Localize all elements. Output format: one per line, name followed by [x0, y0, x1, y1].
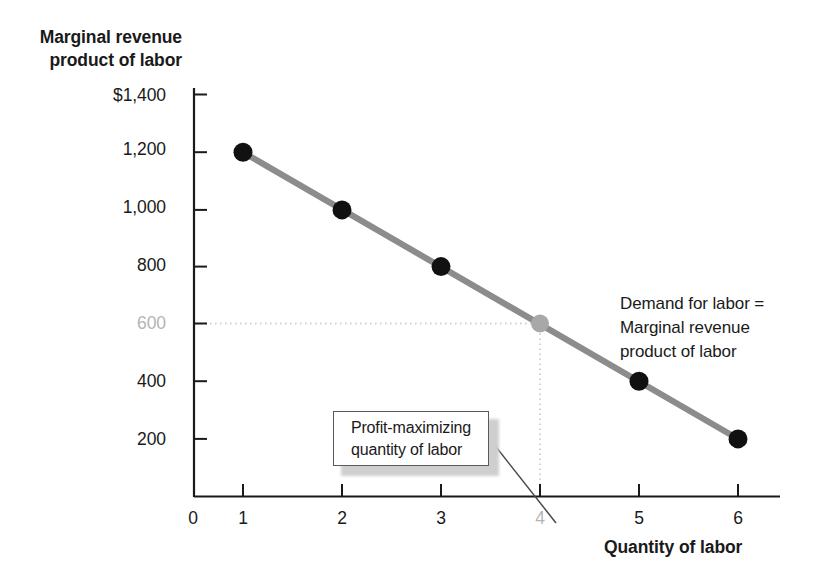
- chart-figure: Marginal revenue product of labor $1,400…: [0, 0, 819, 585]
- data-point-marker-4-highlighted: [531, 315, 549, 333]
- data-point-marker-5: [630, 372, 649, 391]
- data-point-marker-1: [234, 143, 253, 162]
- profit-max-callout-box: Profit-maximizing quantity of labor: [333, 411, 489, 466]
- data-point-marker-6: [729, 429, 748, 448]
- demand-curve-annotation: Demand for labor = Marginal revenue prod…: [620, 292, 764, 364]
- x-axis-ticks: [243, 484, 738, 497]
- y-axis-ticks: [194, 95, 207, 439]
- callout-leader-line: [489, 438, 556, 523]
- data-point-marker-3: [432, 257, 451, 276]
- profit-max-callout-text: Profit-maximizing quantity of labor: [351, 417, 471, 461]
- data-point-marker-2: [333, 200, 352, 219]
